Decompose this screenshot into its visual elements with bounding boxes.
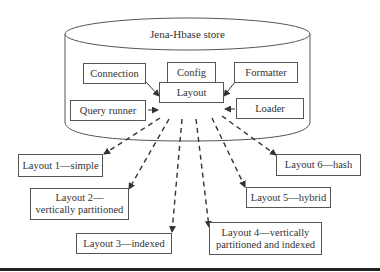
- layout-2-label-line2: vertically partitioned: [36, 204, 124, 216]
- store-title: Jena-Hbase store: [65, 28, 310, 40]
- layout-6-box: Layout 6—hash: [276, 154, 361, 176]
- loader-label: Loader: [255, 103, 285, 115]
- layout-5-label: Layout 5—hybrid: [251, 192, 327, 204]
- formatter-box: Formatter: [234, 62, 298, 83]
- bottom-rule-divider: [0, 268, 380, 271]
- layout-4-label-line1: Layout 4—vertically: [222, 227, 310, 239]
- layout-4-label-line2: partitioned and indexed: [216, 239, 315, 251]
- formatter-label: Formatter: [245, 67, 286, 79]
- layout-6-label: Layout 6—hash: [285, 159, 352, 171]
- layout-label: Layout: [177, 87, 207, 99]
- layout-2-box: Layout 2— vertically partitioned: [30, 188, 129, 220]
- loader-box: Loader: [236, 98, 304, 119]
- layout-1-label: Layout 1—simple: [22, 160, 98, 172]
- diagram-connectors: [0, 0, 380, 272]
- config-label: Config: [177, 67, 206, 79]
- layout-2-label-line1: Layout 2—: [55, 192, 103, 204]
- layout-5-box: Layout 5—hybrid: [246, 187, 331, 208]
- query-runner-label: Query runner: [80, 105, 136, 117]
- connection-box: Connection: [83, 63, 146, 84]
- layout-3-label: Layout 3—indexed: [83, 238, 164, 250]
- layout-3-box: Layout 3—indexed: [76, 233, 172, 254]
- config-box: Config: [167, 62, 216, 83]
- connection-label: Connection: [90, 68, 138, 80]
- layout-4-box: Layout 4—vertically partitioned and inde…: [209, 222, 322, 255]
- layout-box: Layout: [159, 82, 224, 103]
- query-runner-box: Query runner: [70, 100, 146, 121]
- layout-1-box: Layout 1—simple: [18, 154, 103, 177]
